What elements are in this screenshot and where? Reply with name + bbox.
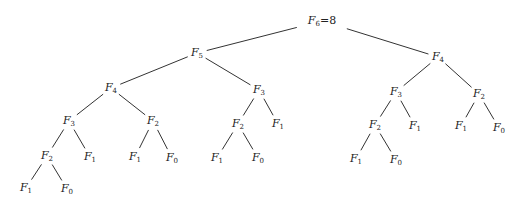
node-subscript: 4 [113, 87, 117, 95]
node-label: F [84, 150, 92, 163]
tree-edges [0, 0, 527, 206]
node-label: F [369, 118, 377, 131]
node-subscript: 1 [92, 156, 96, 164]
tree-edge [74, 130, 85, 149]
tree-node: F2 [147, 115, 159, 128]
tree-node: F2 [232, 118, 244, 131]
node-subscript: 2 [49, 155, 53, 163]
tree-node: F1 [455, 120, 467, 133]
tree-node: F5 [191, 47, 203, 60]
node-label: F [493, 121, 501, 134]
node-label: F [166, 151, 174, 164]
node-subscript: 0 [260, 157, 264, 165]
tree-node: F1 [84, 151, 96, 164]
node-label: F [191, 46, 199, 59]
tree-edge [361, 134, 370, 151]
tree-node: F3 [63, 115, 75, 128]
node-value: =8 [320, 14, 336, 27]
tree-node: F2 [473, 88, 485, 101]
tree-node: F0 [493, 122, 505, 135]
node-subscript: 1 [463, 125, 467, 133]
tree-edge [77, 94, 103, 115]
node-subscript: 3 [398, 91, 402, 99]
tree-node: F0 [61, 183, 73, 196]
tree-node: F1 [211, 152, 223, 165]
node-subscript: 3 [261, 89, 265, 97]
node-subscript: 2 [377, 124, 381, 132]
node-subscript: 1 [137, 156, 141, 164]
tree-node: F2 [41, 150, 53, 163]
tree-edge [484, 103, 494, 120]
tree-node: F1 [20, 182, 32, 195]
node-subscript: 3 [71, 120, 75, 128]
node-subscript: 1 [219, 157, 223, 165]
node-label: F [63, 114, 71, 127]
tree-node: F4 [432, 51, 444, 64]
tree-edge [380, 100, 390, 116]
tree-edge [158, 130, 168, 149]
tree-edge [445, 64, 471, 88]
node-label: F [41, 149, 49, 162]
tree-edge [207, 27, 297, 50]
tree-edge [380, 134, 391, 152]
node-subscript: 1 [417, 125, 421, 133]
node-subscript: 0 [174, 157, 178, 165]
node-label: F [147, 114, 155, 127]
tree-edge [347, 29, 429, 54]
tree-node: F1 [272, 118, 284, 131]
node-label: F [409, 119, 417, 132]
node-label: F [432, 50, 440, 63]
tree-node: F1 [409, 120, 421, 133]
tree-node: F3 [253, 84, 265, 97]
tree-edge [52, 129, 63, 147]
node-subscript: 2 [155, 120, 159, 128]
tree-edge [139, 130, 148, 148]
node-label: F [390, 153, 398, 166]
node-label: F [20, 181, 28, 194]
tree-node: F2 [369, 119, 381, 132]
tree-edge [31, 164, 41, 179]
tree-edge [206, 58, 251, 85]
node-label: F [455, 119, 463, 132]
node-subscript: 1 [28, 187, 32, 195]
node-subscript: 0 [69, 188, 73, 196]
node-label: F [272, 117, 280, 130]
tree-edge [401, 101, 410, 118]
tree-edge [243, 99, 253, 116]
node-label: F [105, 81, 113, 94]
node-label: F [232, 117, 240, 130]
fibonacci-tree-diagram: F6=8F5F4F4F3F3F2F3F2F2F1F2F1F1F0F2F1F1F0… [0, 0, 527, 206]
node-subscript: 2 [240, 123, 244, 131]
tree-edge [264, 99, 273, 116]
tree-node: F0 [252, 152, 264, 165]
tree-node: F4 [105, 82, 117, 95]
node-label: F [61, 182, 69, 195]
tree-node: F0 [166, 152, 178, 165]
tree-node: F1 [350, 153, 362, 166]
node-subscript: 1 [358, 158, 362, 166]
node-label: F [390, 85, 398, 98]
node-subscript: 5 [199, 52, 203, 60]
tree-node: F1 [129, 151, 141, 164]
tree-edge [222, 133, 232, 150]
tree-edge [120, 57, 187, 84]
tree-root-node: F6=8 [308, 15, 336, 28]
tree-node: F0 [390, 154, 402, 167]
node-label: F [253, 83, 261, 96]
tree-edge [243, 133, 253, 150]
node-subscript: 1 [280, 123, 284, 131]
node-subscript: 4 [440, 56, 444, 64]
tree-edge [52, 165, 62, 181]
tree-edge [466, 103, 474, 118]
node-subscript: 2 [481, 93, 485, 101]
node-label: F [350, 152, 358, 165]
tree-edge [119, 94, 145, 115]
node-label: F [211, 151, 219, 164]
node-subscript: 0 [398, 159, 402, 167]
node-label: F [252, 151, 260, 164]
node-subscript: 0 [501, 127, 505, 135]
node-label: F [308, 14, 316, 27]
node-label: F [129, 150, 137, 163]
tree-edge [404, 63, 431, 85]
node-label: F [473, 87, 481, 100]
